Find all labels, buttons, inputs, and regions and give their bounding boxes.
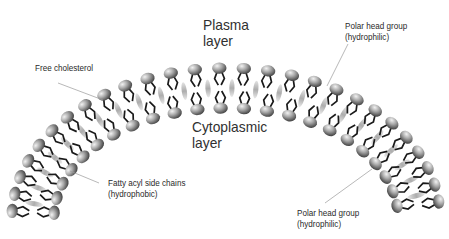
cholesterol-molecule [112,101,124,120]
polar-head-inner [236,103,251,115]
fatty-acyl-tail [57,132,65,142]
cholesterol-molecule [401,174,420,186]
cholesterol-molecule [180,82,188,101]
fatty-acyl-tail [85,110,93,121]
polar-head-inner [213,102,228,113]
cholesterol-molecule [157,86,166,105]
fatty-acyl-tail [33,161,44,169]
polar-head-inner [390,198,403,214]
cholesterol-molecule [275,84,284,103]
fatty-acyl-tail [419,188,432,192]
fatty-acyl-tail [104,99,111,110]
fatty-acyl-tail [309,106,315,118]
fatty-acyl-tail [328,92,333,104]
polar-head-bottom-line2: (hydrophilic) [297,219,359,230]
cholesterol-molecule [134,93,145,112]
polar-head-inner [63,161,81,179]
fatty-acyl-tail [264,94,268,107]
fatty-acyl-tail [197,93,201,106]
fatty-acyl-tail [380,125,388,136]
fatty-acyl-tail [405,156,416,163]
polar-head-outer [58,108,76,126]
fatty-acyl-tail [329,114,336,125]
cholesterol-molecule [393,158,411,172]
fatty-acyl-tail [47,177,58,184]
fatty-acyl-tail [37,213,50,217]
cholesterol-molecule [354,116,368,134]
polar-head-inner [367,154,385,172]
fatty-acyl-tail [331,94,337,106]
polar-head-outer [284,68,301,82]
fatty-acyl-tail [72,119,79,130]
fatty-acyl-tail [262,75,265,88]
fatty-acyl-tail [41,190,54,194]
polar-head-top-line2: (hydrophilic) [345,32,407,43]
fatty-acyl-tail [215,72,219,85]
free-cholesterol-label: Free cholesterol [35,63,93,74]
polar-head-inner [167,106,183,120]
fatty-acyl-tail [16,214,29,217]
polar-head-outer [212,62,227,74]
polar-head-outer [6,203,18,218]
fatty-acyl-tail [70,146,78,156]
cholesterol-molecule [25,200,44,208]
polar-head-outer [383,114,401,132]
fatty-acyl-tail [396,183,409,188]
fatty-acyl-tail [108,97,113,109]
fatty-acyl-tail [173,96,178,109]
fatty-acyl-line2: (hydrophobic) [108,189,185,200]
fatty-acyl-tail [314,107,319,120]
fatty-acyl-line1: Fatty acyl side chains [108,178,185,189]
polar-head-inner [259,105,275,118]
polar-head-outer [30,136,48,154]
polar-head-inner [105,126,123,143]
fatty-acyl-tail [292,100,296,113]
fatty-acyl-label: Fatty acyl side chains (hydrophobic) [108,178,185,200]
fatty-acyl-tail [246,92,249,105]
cholesterol-molecule [46,150,63,165]
polar-head-inner [54,175,71,193]
fatty-acyl-tail [25,176,37,182]
polar-head-top-line1: Polar head group [345,21,407,32]
polar-head-outer [348,91,366,108]
polar-head-outer [187,63,202,76]
polar-head-bottom-label: Polar head group (hydrophilic) [297,208,359,230]
cholesterol-molecule [229,79,235,97]
polar-head-outer [43,122,61,140]
cholesterol-molecule [252,80,259,98]
polar-head-outer [397,128,415,146]
fatty-acyl-tail [68,122,77,132]
plasma-layer-title: Plasma layer [203,17,249,49]
leader-line-fatty-acyl [70,171,99,183]
fatty-acyl-tail [285,79,289,92]
polar-head-inner [281,109,298,123]
fatty-acyl-tail [221,72,224,85]
fatty-acyl-tail [86,132,93,143]
fatty-acyl-tail [238,72,241,85]
fatty-acyl-tail [216,91,219,104]
fatty-acyl-tail [107,119,114,130]
fatty-acyl-tail [351,126,357,137]
fatty-acyl-tail [390,169,401,177]
cytoplasmic-layer-title-line2: layer [192,135,267,151]
fatty-acyl-tail [412,168,423,175]
fatty-acyl-tail [334,116,339,128]
fatty-acyl-tail [168,97,172,110]
polar-head-outer [432,194,445,210]
fatty-acyl-tail [422,198,435,203]
fatty-acyl-tail [367,139,375,150]
fatty-acyl-tail [267,75,271,88]
cholesterol-molecule [205,79,211,97]
fatty-acyl-tail [124,111,129,123]
fatty-acyl-tail [16,207,29,211]
fatty-acyl-tail [191,93,194,106]
leader-line-free-cholesterol [58,83,103,100]
leader-line-polar-head-bottom [325,169,372,203]
fatty-acyl-tail [37,207,50,210]
fatty-acyl-tail [401,204,414,209]
fatty-acyl-tail [311,86,316,98]
fatty-acyl-tail [240,92,244,105]
fatty-acyl-tail [347,102,352,114]
fatty-acyl-tail [105,120,110,132]
polar-head-bottom-line1: Polar head group [297,208,359,219]
